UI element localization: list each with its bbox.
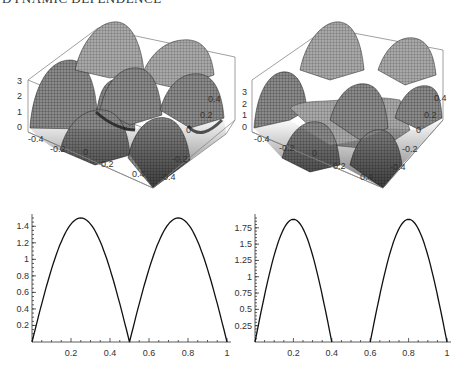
y-tick-label: 1.5: [239, 239, 252, 249]
svg-text:0.2: 0.2: [200, 110, 213, 120]
svg-text:0: 0: [312, 148, 317, 158]
svg-text:0: 0: [186, 125, 191, 135]
svg-text:1: 1: [17, 107, 22, 117]
svg-text:3: 3: [242, 87, 247, 97]
svg-text:-0.2: -0.2: [50, 144, 66, 154]
x-tick-label: 1: [444, 348, 449, 358]
svg-text:2: 2: [242, 99, 247, 109]
y-tick-label: 1.2: [16, 238, 29, 248]
y-tick-label: 0.75: [234, 288, 252, 298]
svg-text:0.2: 0.2: [101, 159, 114, 169]
y-tick-label: 1: [247, 272, 252, 282]
x-tick-label: 0.6: [364, 348, 377, 358]
data-curve: [32, 218, 227, 342]
surface-mesh: [254, 22, 443, 188]
x-tick-label: 1: [224, 348, 229, 358]
y-tick-label: 1.4: [16, 221, 29, 231]
surface-mesh: [30, 22, 226, 188]
svg-text:1: 1: [242, 110, 247, 120]
svg-text:0.4: 0.4: [360, 172, 373, 182]
z-axis-ticks: 3 2 1 0: [17, 76, 22, 132]
svg-text:-0.2: -0.2: [402, 144, 418, 154]
x-tick-label: 0.4: [104, 348, 117, 358]
x-tick-label: 0.4: [326, 348, 339, 358]
svg-text:0.4: 0.4: [434, 93, 447, 103]
y-tick-label: 0.6: [16, 287, 29, 297]
svg-text:-0.4: -0.4: [254, 134, 270, 144]
y-tick-label: 1.25: [234, 255, 252, 265]
figure: 3 2 1 0 -0.4 -0.2 0 0.2 0.4 -0.4 -0.2 0 …: [0, 0, 461, 367]
svg-text:0: 0: [416, 125, 421, 135]
x-tick-label: 0.8: [402, 348, 415, 358]
svg-text:-0.4: -0.4: [390, 162, 406, 172]
x-tick-label: 0.2: [287, 348, 300, 358]
x-tick-label: 0.6: [143, 348, 156, 358]
svg-text:0: 0: [83, 147, 88, 157]
y-tick-label: 0.4: [16, 304, 29, 314]
svg-text:2: 2: [17, 91, 22, 101]
y-tick-label: 1: [24, 254, 29, 264]
x-tick-label: 0.8: [182, 348, 195, 358]
svg-text:-0.2: -0.2: [172, 154, 188, 164]
y-tick-label: 0.2: [16, 320, 29, 330]
line-plot-right: 0.20.40.60.810.250.50.7511.251.51.75: [234, 214, 451, 358]
axes: [255, 214, 451, 342]
svg-text:0.4: 0.4: [132, 169, 145, 179]
svg-text:-0.4: -0.4: [28, 134, 44, 144]
svg-text:0: 0: [17, 122, 22, 132]
surface-plot-right: 3 2 1 0 -0.4 -0.2 0 0.2 0.4 -0.4 -0.2 0 …: [242, 22, 447, 188]
y-tick-label: 0.5: [239, 304, 252, 314]
data-curve: [255, 219, 447, 342]
svg-text:-0.2: -0.2: [279, 143, 295, 153]
svg-text:0.2: 0.2: [424, 110, 437, 120]
svg-text:-0.4: -0.4: [160, 172, 176, 182]
svg-text:0.4: 0.4: [208, 94, 221, 104]
svg-text:3: 3: [17, 76, 22, 86]
svg-text:0.2: 0.2: [333, 161, 346, 171]
axes: [32, 214, 231, 342]
y-tick-label: 0.25: [234, 321, 252, 331]
x-tick-label: 0.2: [65, 348, 78, 358]
line-plot-left: 0.20.40.60.810.20.40.60.811.21.4: [16, 214, 231, 358]
z-axis-ticks: 3 2 1 0: [242, 87, 247, 132]
y-tick-label: 0.8: [16, 271, 29, 281]
svg-text:0: 0: [242, 122, 247, 132]
surface-plot-left: 3 2 1 0 -0.4 -0.2 0 0.2 0.4 -0.4 -0.2 0 …: [17, 22, 235, 188]
y-tick-label: 1.75: [234, 223, 252, 233]
